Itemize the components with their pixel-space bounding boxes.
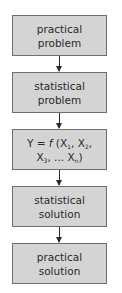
formula-line-2: X3, ... Xn): [36, 150, 82, 164]
step-model-formula: Y = f (X1, X2, X3, ... Xn): [12, 129, 107, 170]
arrow-down: [59, 170, 60, 185]
formula-line-1: Y = f (X1, X2,: [27, 136, 92, 150]
step-label: problem: [38, 36, 81, 50]
step-label: practical: [37, 250, 82, 264]
arrow-down: [59, 113, 60, 128]
step-label: solution: [39, 264, 81, 278]
step-label: practical: [37, 22, 82, 36]
step-label: problem: [38, 93, 81, 107]
arrow-down: [59, 56, 60, 71]
step-label: statistical: [34, 193, 85, 207]
step-practical-solution: practical solution: [12, 243, 107, 284]
step-label: solution: [39, 207, 81, 221]
step-statistical-solution: statistical solution: [12, 186, 107, 227]
step-statistical-problem: statistical problem: [12, 72, 107, 113]
arrow-down: [59, 227, 60, 242]
step-practical-problem: practical problem: [12, 15, 107, 56]
step-label: statistical: [34, 79, 85, 93]
